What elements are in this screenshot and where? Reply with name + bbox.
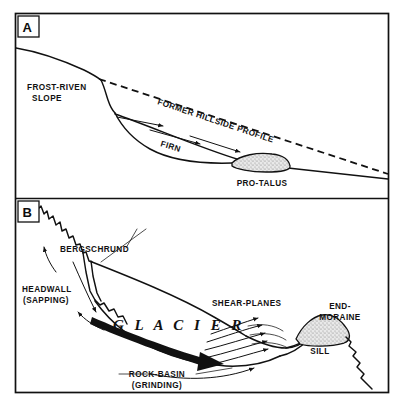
label-glacier: G L A C I E R <box>113 317 245 333</box>
label-headwall-line1: HEADWALL <box>22 285 72 294</box>
panel-b-distal-slope <box>346 337 372 389</box>
label-former-hillside-profile: FORMER HILLSIDE PROFILE <box>156 97 275 144</box>
panel-a-upper-slope <box>16 48 101 80</box>
label-sill: SILL <box>310 347 329 356</box>
label-end-moraine-line1: END- <box>329 302 351 311</box>
label-firn: FIRN <box>159 139 181 154</box>
label-shear-planes: SHEAR-PLANES <box>212 299 282 308</box>
panel-a-letter: A <box>23 20 33 35</box>
figure-root: A FROST-RIVEN SLOPE FORMER HILLSIDE PROF… <box>0 0 403 407</box>
panel-a-steep-face <box>101 80 115 113</box>
diagram-svg: A FROST-RIVEN SLOPE FORMER HILLSIDE PROF… <box>0 0 403 407</box>
glacier-flow-arrow-head <box>197 352 224 371</box>
label-frost-riven-line2: SLOPE <box>32 94 62 103</box>
firn-flow-arrow-1 <box>117 117 163 126</box>
label-frost-riven-line1: FROST-RIVEN <box>27 83 86 92</box>
label-rock-basin-line1: ROCK-BASIN <box>129 370 185 379</box>
label-end-moraine-line2: MORAINE <box>319 313 361 322</box>
pro-talus-body <box>232 153 290 172</box>
label-rock-basin-line2: (GRINDING) <box>132 381 182 390</box>
label-headwall-line2: (SAPPING) <box>23 296 69 305</box>
label-pro-talus: PRO-TALUS <box>237 179 288 188</box>
label-bergschrund: BERGSCHRUND <box>60 245 129 254</box>
panel-a: A FROST-RIVEN SLOPE FORMER HILLSIDE PROF… <box>16 16 388 188</box>
firn-flow-arrow-3 <box>190 136 240 152</box>
panel-b-letter: B <box>23 205 32 220</box>
panel-b: B BERGSCHRUND HEADWALL (SAPPING) G L A C… <box>18 201 372 390</box>
headwall-pointer-arrow <box>44 247 56 272</box>
